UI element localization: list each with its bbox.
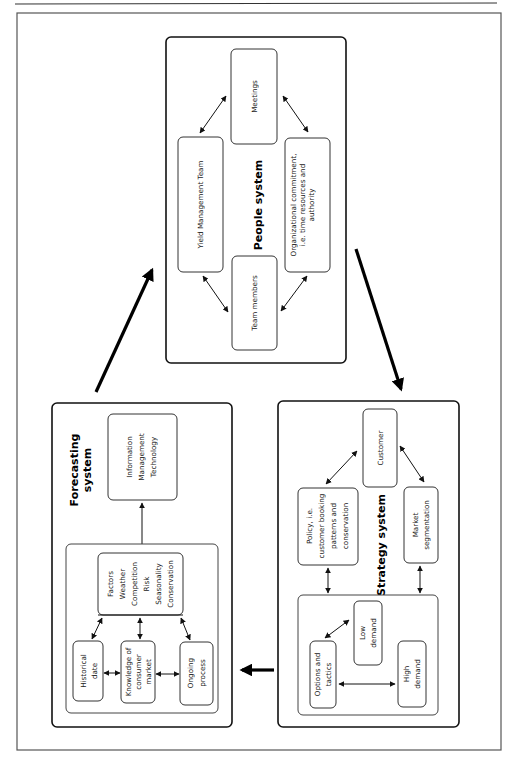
forecasting-title-line-2: system [81, 448, 94, 492]
flow-arrow-forecasting-to-people [96, 270, 152, 392]
node-meetings: Meetings [231, 49, 277, 144]
policy-line-2: customer booking [317, 494, 326, 559]
node-yield-team: Yield Management Team [178, 137, 223, 272]
forecasting-title-line-1: Forecasting [68, 434, 81, 507]
node-customer: Customer [363, 409, 397, 487]
yield-team-label: Yield Management Team [196, 160, 205, 249]
node-high-demand: High demand [398, 641, 426, 707]
node-low-demand: Low demand [354, 601, 382, 665]
node-historical: Historical date [73, 641, 103, 701]
node-factors: Factors Weather Competition Risk Seasona… [98, 553, 183, 615]
info-mgmt-line-3: Technology [149, 436, 158, 478]
factors-line-5: Seasonality [154, 562, 163, 604]
flow-arrow-people-to-strategy [356, 249, 401, 389]
knowledge-line-3: market [144, 659, 153, 685]
team-members-label: Team members [250, 275, 259, 332]
factors-line-1: Factors [106, 571, 115, 597]
people-system: Meetings Yield Management Team Organizat… [166, 37, 346, 363]
people-system-title: People system [252, 160, 265, 250]
node-team-members: Team members [232, 256, 277, 350]
strategy-system: Customer Policy, i.e. customer booking p… [278, 401, 459, 727]
org-commitment-line-3: authority [307, 188, 316, 222]
historical-line-1: Historical [79, 654, 88, 688]
ongoing-line-2: process [198, 659, 207, 687]
historical-line-2: date [90, 662, 99, 679]
knowledge-line-1: Knowledge of [124, 647, 133, 696]
node-market-seg: Market segmentation [404, 487, 438, 563]
factors-line-2: Weather [118, 569, 127, 599]
policy-line-4: conservation [341, 503, 350, 549]
market-seg-line-1: Market [411, 512, 420, 537]
factors-line-4: Risk [142, 576, 151, 592]
node-ongoing: Ongoing process [180, 642, 213, 705]
node-options: Options and tactics [310, 641, 336, 708]
high-demand-line-1: High [402, 666, 411, 683]
ongoing-line-1: Ongoing [186, 658, 195, 688]
policy-line-3: patterns and [329, 503, 338, 549]
node-knowledge: Knowledge of consumer market [121, 641, 155, 703]
org-commitment-line-2: i.e. time resources and [298, 164, 307, 246]
node-org-commitment: Organizational commitment, i.e. time res… [285, 138, 330, 272]
low-demand-line-1: Low [358, 626, 367, 640]
org-commitment-line-1: Organizational commitment, [289, 154, 298, 257]
node-policy: Policy, i.e. customer booking patterns a… [298, 488, 358, 565]
policy-line-1: Policy, i.e. [305, 508, 314, 544]
customer-label: Customer [376, 431, 385, 466]
factors-line-3: Competition [130, 562, 139, 606]
meetings-label: Meetings [250, 80, 259, 113]
low-demand-line-2: demand [369, 618, 378, 648]
diagram-canvas: Meetings Yield Management Team Organizat… [0, 0, 515, 767]
high-demand-line-2: demand [413, 659, 422, 689]
options-line-1: Options and [313, 653, 322, 697]
knowledge-line-2: consumer [134, 654, 143, 690]
node-info-mgmt: Information Management Technology [108, 414, 177, 500]
factors-line-6: Conservation [166, 560, 175, 608]
top-rule [15, 3, 497, 4]
info-mgmt-line-2: Management [137, 433, 146, 481]
strategy-system-title: Strategy system [375, 494, 388, 596]
market-seg-line-2: segmentation [422, 500, 431, 550]
info-mgmt-line-1: Information [125, 436, 134, 478]
options-line-2: tactics [324, 662, 333, 686]
forecasting-system: Forecasting system Information Managemen… [52, 403, 232, 727]
